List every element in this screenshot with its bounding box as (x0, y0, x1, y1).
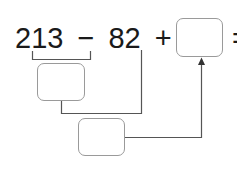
arrow-head-icon (198, 58, 205, 66)
answer-box[interactable] (176, 18, 223, 57)
step1-box[interactable] (37, 63, 85, 101)
step2-to-answer-line (125, 63, 202, 138)
bracket-line (33, 51, 91, 60)
step2-box[interactable] (78, 118, 125, 156)
